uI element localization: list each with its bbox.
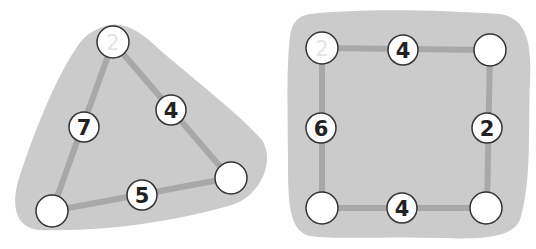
square-node-bottom-left bbox=[306, 192, 338, 224]
puzzle-diagram: 2 7 4 5 2 bbox=[0, 0, 536, 249]
triangle-node-bottom-left bbox=[36, 195, 68, 227]
triangle-node-bottom-right bbox=[215, 162, 247, 194]
edge-label-text: 5 bbox=[135, 184, 150, 208]
edge-label-text: 2 bbox=[480, 117, 495, 141]
square-node-top-right bbox=[474, 34, 506, 66]
square-edge-label-right: 2 bbox=[472, 113, 502, 143]
edge-label-text: 4 bbox=[396, 39, 411, 63]
triangle-edge-label-left: 7 bbox=[69, 112, 99, 142]
square-edge-label-top: 4 bbox=[388, 35, 418, 65]
square-edge-label-bottom: 4 bbox=[387, 193, 417, 223]
triangle-node-top: 2 bbox=[97, 26, 129, 58]
triangle-edge-label-bottom: 5 bbox=[127, 180, 157, 210]
edge-label-text: 4 bbox=[164, 99, 179, 123]
square-edge-label-left: 6 bbox=[306, 113, 336, 143]
triangle-node-top-label: 2 bbox=[106, 31, 119, 55]
square-node-top-left-label: 2 bbox=[315, 37, 328, 61]
triangle-figure: 2 7 4 5 bbox=[15, 24, 267, 230]
square-figure: 2 4 6 2 4 bbox=[288, 10, 531, 238]
edge-label-text: 7 bbox=[77, 116, 92, 140]
square-node-top-left: 2 bbox=[306, 32, 338, 64]
edge-label-text: 4 bbox=[395, 197, 410, 221]
square-node-bottom-right bbox=[470, 192, 502, 224]
triangle-edge-label-right: 4 bbox=[156, 95, 186, 125]
edge-label-text: 6 bbox=[314, 117, 329, 141]
